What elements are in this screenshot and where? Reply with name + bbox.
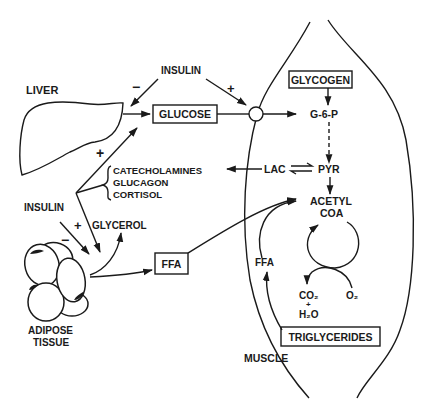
glucose-label: GLUCOSE: [159, 108, 211, 120]
liver-shape: [20, 102, 123, 175]
g6p-label: G-6-P: [310, 108, 338, 120]
hormones-bracket: [103, 166, 111, 200]
muscle-ffa-label: FFA: [255, 257, 274, 268]
pyr-label: PYR: [318, 163, 340, 175]
hormone-cortisol: CORTISOL: [113, 189, 162, 200]
insulin-top-label: INSULIN: [161, 65, 201, 76]
hormone-glucagon: GLUCAGON: [113, 177, 169, 188]
triglycerides-node: TRIGLYCERIDES: [281, 327, 380, 346]
tca-cycle-loop: [307, 222, 358, 268]
glycogen-node: GLYCOGEN: [289, 71, 352, 88]
co2-h2o-plus: +: [306, 300, 311, 309]
adipose-tissue-icon: [20, 238, 88, 321]
glycerol-label: GLYCEROL: [92, 220, 147, 231]
ffa-box-label: FFA: [162, 258, 182, 270]
coa-label: COA: [320, 207, 344, 219]
adipose-label-line2: TISSUE: [33, 337, 69, 348]
lac-label: LAC: [264, 163, 286, 175]
insulin-left-label: INSULIN: [24, 202, 64, 213]
ffa-node: FFA: [155, 253, 188, 274]
oxidation-curve: [307, 268, 352, 288]
lac-pyr-equilibrium-icon: [291, 163, 312, 174]
adipose-label-line1: ADIPOSE: [28, 325, 73, 336]
o2-label: O₂: [346, 290, 358, 301]
triglycerides-label: TRIGLYCERIDES: [288, 331, 372, 343]
glucose-node: GLUCOSE: [153, 105, 217, 123]
muscle-label: MUSCLE: [244, 352, 288, 364]
ffa-to-acetylcoa-arrow: [188, 199, 296, 253]
insulin-liver-sign: −: [132, 79, 140, 95]
glycogen-label: GLYCOGEN: [291, 74, 350, 86]
hormones-adipose-sign: +: [74, 218, 82, 233]
glucose-transporter-circle: [249, 107, 263, 121]
hormone-catecholamines: CATECHOLAMINES: [113, 165, 202, 176]
triglycerides-to-ffa-arrow: [267, 272, 282, 330]
h2o-label: H₂O: [299, 309, 319, 320]
liver-label: LIVER: [26, 84, 58, 96]
hormones-liver-sign: +: [96, 145, 104, 161]
insulin-muscle-sign: +: [227, 81, 235, 96]
insulin-to-muscle-arrow: [206, 79, 246, 105]
metabolism-diagram: LIVER INSULIN − + GLUCOSE GLYCOGEN G-6-P…: [0, 0, 428, 419]
acetyl-label: ACETYL: [310, 195, 353, 207]
